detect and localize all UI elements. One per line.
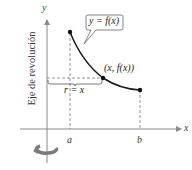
callout-label: y = f(x) — [89, 15, 119, 26]
rotation-arrow-icon — [33, 146, 56, 154]
point-end — [138, 88, 142, 92]
radius-label: r = x — [64, 84, 84, 95]
point-label: (x, f(x)) — [104, 62, 134, 73]
tick-label-b: b — [137, 134, 142, 145]
axis-of-revolution-label: Eje de revolución — [26, 19, 37, 119]
tick-label-a: a — [67, 134, 72, 145]
y-axis-label: y — [42, 2, 46, 13]
point-start — [68, 30, 72, 34]
point-x-fx — [101, 76, 105, 80]
curve-fx — [70, 32, 140, 90]
x-axis-label: x — [184, 122, 188, 133]
